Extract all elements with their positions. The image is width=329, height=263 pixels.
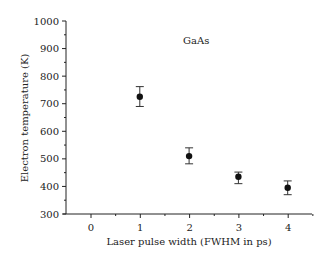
y-tick-label: 600 bbox=[40, 126, 59, 137]
material-annotation: GaAs bbox=[183, 35, 209, 46]
x-tick-label: 0 bbox=[88, 222, 94, 233]
data-point bbox=[284, 181, 292, 195]
x-ticks: 01234 bbox=[88, 214, 313, 233]
marker-filled-circle bbox=[235, 174, 241, 180]
x-axis-label: Laser pulse width (FWHM in ps) bbox=[106, 236, 271, 247]
y-tick-label: 400 bbox=[40, 181, 59, 192]
chart: 3004005006007008009001000 01234 GaAs Las… bbox=[0, 0, 329, 263]
x-tick-label: 4 bbox=[285, 222, 291, 233]
y-axis-label: Electron temperature (K) bbox=[19, 54, 30, 183]
y-tick-label: 900 bbox=[40, 43, 59, 54]
axes bbox=[63, 21, 312, 214]
y-tick-label: 700 bbox=[40, 98, 59, 109]
y-tick-label: 1000 bbox=[34, 16, 59, 27]
marker-filled-circle bbox=[137, 94, 143, 100]
x-tick-label: 1 bbox=[137, 222, 143, 233]
y-ticks: 3004005006007008009001000 bbox=[34, 16, 66, 220]
marker-filled-circle bbox=[186, 153, 192, 159]
marker-filled-circle bbox=[285, 185, 291, 191]
x-tick-label: 2 bbox=[186, 222, 192, 233]
y-tick-label: 300 bbox=[40, 209, 59, 220]
x-tick-label: 3 bbox=[236, 222, 242, 233]
y-tick-label: 500 bbox=[40, 153, 59, 164]
data-point bbox=[234, 172, 242, 184]
data-point bbox=[136, 87, 144, 107]
data-point bbox=[185, 148, 193, 164]
y-tick-label: 800 bbox=[40, 71, 59, 82]
data-series bbox=[136, 87, 292, 195]
